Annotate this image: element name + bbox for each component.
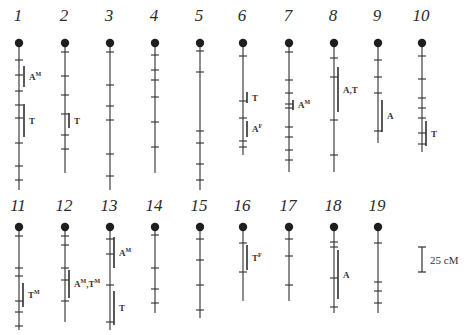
qtl-label: AM [29, 71, 42, 82]
qtl-label: AM [119, 247, 132, 258]
centromere-dot [239, 39, 247, 47]
chromosome-number: 3 [104, 6, 114, 25]
qtl-label: T [74, 116, 80, 126]
centromere-dot [285, 223, 293, 231]
chromosome-17: 17 [280, 196, 299, 301]
qtl-label: A [387, 111, 394, 121]
qtl-label: T [431, 129, 437, 139]
chromosome-7: 7AM [284, 6, 311, 172]
centromere-dot [196, 39, 204, 47]
centromere-dot [285, 39, 293, 47]
chromosome-number: 1 [14, 6, 23, 25]
chromosome-number: 15 [191, 196, 208, 215]
chromosome-4: 4 [150, 6, 159, 173]
chromosome-group: 1AMT2T3456TAF7AM8A,T9A10T11TM12AM,TM13AM… [10, 6, 437, 330]
centromere-dot [374, 39, 382, 47]
qtl-label: T [252, 93, 258, 103]
chromosome-number: 12 [56, 196, 74, 215]
chromosome-number: 16 [234, 196, 252, 215]
centromere-dot [239, 223, 247, 231]
centromere-dot [61, 39, 69, 47]
scale-bar-label: 25 cM [430, 254, 459, 266]
chromosome-5: 5 [195, 6, 204, 190]
qtl-label: TF [252, 252, 262, 263]
chromosome-18: 18A [325, 196, 351, 313]
chromosome-number: 13 [101, 196, 118, 215]
chromosome-11: 11TM [10, 196, 40, 330]
chromosome-3: 3 [104, 6, 114, 190]
chromosome-number: 17 [280, 196, 299, 215]
chromosome-number: 2 [60, 6, 69, 25]
chromosome-number: 11 [10, 196, 26, 215]
chromosome-number: 4 [150, 6, 159, 25]
centromere-dot [151, 223, 159, 231]
qtl-label: T [29, 116, 35, 126]
chromosome-19: 19 [369, 196, 387, 313]
centromere-dot [330, 223, 338, 231]
chromosome-8: 8A,T [329, 6, 358, 172]
chromosome-15: 15 [191, 196, 208, 318]
qtl-label: TM [28, 289, 40, 300]
qtl-label: AM,TM [74, 278, 100, 289]
centromere-dot [151, 39, 159, 47]
chromosome-1: 1AMT [14, 6, 42, 190]
chromosome-2: 2T [60, 6, 80, 173]
chromosome-number: 9 [373, 6, 382, 25]
centromere-dot [196, 223, 204, 231]
chromosome-6: 6TAF [238, 6, 263, 155]
centromere-dot [106, 39, 114, 47]
linkage-map: 1AMT2T3456TAF7AM8A,T9A10T11TM12AM,TM13AM… [0, 0, 471, 335]
chromosome-number: 18 [325, 196, 343, 215]
centromere-dot [106, 223, 114, 231]
chromosome-12: 12AM,TM [56, 196, 101, 322]
qtl-label: A,T [343, 85, 358, 95]
chromosome-number: 7 [284, 6, 294, 25]
qtl-label: AM [298, 99, 311, 110]
chromosome-16: 16TF [234, 196, 263, 301]
scale-bar: 25 cM [418, 247, 459, 272]
chromosome-10: 10T [413, 6, 438, 152]
centromere-dot [418, 39, 426, 47]
qtl-label: AF [252, 123, 263, 134]
centromere-dot [61, 223, 69, 231]
centromere-dot [15, 223, 23, 231]
qtl-label: A [343, 270, 350, 280]
centromere-dot [374, 223, 382, 231]
chromosome-13: 13AMT [101, 196, 132, 330]
chromosome-number: 6 [238, 6, 247, 25]
chromosome-14: 14 [146, 196, 164, 313]
qtl-label: T [119, 303, 125, 313]
chromosome-number: 19 [369, 196, 387, 215]
chromosome-9: 9A [373, 6, 394, 143]
chromosome-number: 5 [195, 6, 204, 25]
chromosome-number: 10 [413, 6, 431, 25]
centromere-dot [15, 39, 23, 47]
chromosome-number: 14 [146, 196, 164, 215]
centromere-dot [330, 39, 338, 47]
chromosome-number: 8 [329, 6, 338, 25]
